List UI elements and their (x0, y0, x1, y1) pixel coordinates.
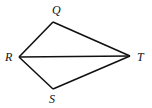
segment-qt (53, 22, 130, 56)
vertex-labels: QRTS (4, 3, 145, 106)
vertex-label-s: S (49, 92, 55, 106)
segment-ts (53, 56, 130, 89)
kite-diagram: QRTS (0, 0, 152, 108)
segment-sr (19, 57, 53, 89)
segment-rq (19, 22, 53, 57)
vertex-label-t: T (137, 50, 145, 64)
vertex-label-r: R (4, 50, 13, 64)
edges (19, 22, 130, 89)
segment-rt (19, 56, 130, 57)
vertex-label-q: Q (52, 3, 61, 17)
